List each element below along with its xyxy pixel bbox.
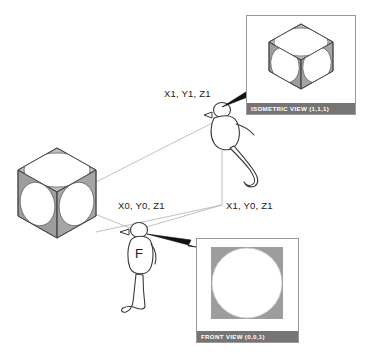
arrow-to-front-panel [147, 234, 196, 247]
label-ground-reference: X1, Y0, Z1 [226, 200, 273, 211]
front-result-graphic [197, 239, 298, 327]
isometric-panel-body [247, 16, 355, 98]
front-result-circle [212, 248, 282, 318]
diagram-canvas: X1, Y1, Z1 X0, Y0, Z1 X1, Y0, Z1 [0, 0, 370, 354]
isometric-result-graphic [247, 16, 355, 98]
front-view-panel[interactable]: FRONT VIEW (0,0,1) [196, 238, 299, 343]
front-panel-caption: FRONT VIEW (0,0,1) [197, 331, 298, 342]
label-iso-viewpoint: X1, Y1, Z1 [164, 88, 211, 99]
front-panel-body [197, 239, 298, 327]
isometric-panel-caption: ISOMETRIC VIEW (1,1,1) [247, 103, 355, 114]
isometric-view-panel[interactable]: ISOMETRIC VIEW (1,1,1) [246, 15, 356, 115]
label-front-viewpoint: X0, Y0, Z1 [118, 200, 165, 211]
front-observer-letter: F [135, 246, 143, 261]
